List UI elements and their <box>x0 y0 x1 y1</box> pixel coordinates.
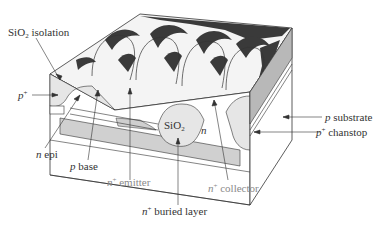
p-plus-chanstop-left <box>50 106 64 114</box>
label-sio2-isolation: SiO2 isolation <box>8 26 69 38</box>
label-p-plus-chanstop: p+ chanstop <box>316 126 367 138</box>
label-n-epi: n epi <box>36 148 58 160</box>
label-n-plus-buried-layer: n+ buried layer <box>142 205 207 217</box>
label-n-plus-collector: n+ collector <box>208 182 259 194</box>
label-n-plus-emitter: n+ emitter <box>107 176 150 188</box>
label-inner-n: n <box>201 124 207 136</box>
label-p-base: p base <box>70 160 98 172</box>
label-p-substrate: p substrate <box>325 111 372 123</box>
label-inner-sio2: SiO2 <box>164 119 185 131</box>
label-p-plus: p+ <box>18 89 27 101</box>
